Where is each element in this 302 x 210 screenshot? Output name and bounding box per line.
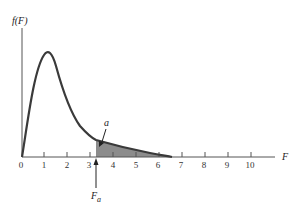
svg-text:3: 3 — [87, 160, 92, 170]
svg-text:9: 9 — [225, 160, 230, 170]
svg-text:4: 4 — [111, 160, 116, 170]
svg-text:8: 8 — [202, 160, 207, 170]
x-tick-labels: 0 1 2 3 4 5 6 7 8 9 10 — [19, 160, 255, 170]
svg-text:7: 7 — [179, 160, 184, 170]
svg-text:0: 0 — [19, 160, 24, 170]
svg-text:2: 2 — [65, 160, 70, 170]
alpha-label: a — [104, 117, 109, 128]
y-axis-label: f(F) — [12, 15, 28, 27]
svg-text:6: 6 — [156, 160, 161, 170]
critical-value-arrowhead — [94, 158, 99, 165]
density-curve — [22, 52, 172, 157]
svg-text:5: 5 — [134, 160, 139, 170]
f-distribution-chart: 0 1 2 3 4 5 6 7 8 9 10 f(F) F a Fa — [0, 0, 302, 210]
x-axis-label: F — [281, 151, 289, 162]
svg-text:1: 1 — [42, 160, 47, 170]
critical-value-label: Fa — [90, 190, 101, 204]
svg-text:10: 10 — [246, 160, 256, 170]
